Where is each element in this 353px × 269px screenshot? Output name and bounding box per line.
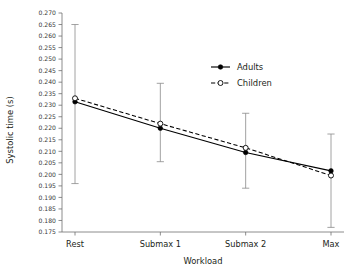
y-tick-label: 0.265 bbox=[39, 21, 57, 28]
chart-legend: AdultsChildren bbox=[211, 62, 272, 88]
y-tick-label: 0.260 bbox=[39, 32, 57, 39]
data-point-children bbox=[329, 173, 334, 178]
data-point-adults bbox=[329, 169, 334, 174]
chart-container: 0.2700.2650.2600.2550.2500.2450.2400.235… bbox=[0, 0, 353, 269]
y-axis-tick-marks bbox=[59, 13, 63, 232]
data-point-children bbox=[73, 96, 78, 101]
y-tick-label: 0.245 bbox=[39, 67, 57, 74]
error-bar bbox=[327, 134, 334, 227]
y-tick-label: 0.190 bbox=[39, 194, 57, 201]
series-line-adults bbox=[75, 102, 331, 171]
legend-label: Children bbox=[237, 78, 272, 88]
y-axis-title-group: Systolic time (s) bbox=[5, 96, 15, 163]
y-axis-group: 0.2700.2650.2600.2550.2500.2450.2400.235… bbox=[39, 9, 62, 235]
y-tick-label: 0.180 bbox=[39, 217, 57, 224]
y-tick-label: 0.235 bbox=[39, 90, 57, 97]
data-point-children bbox=[243, 145, 248, 150]
y-tick-label: 0.175 bbox=[39, 228, 57, 235]
y-tick-label: 0.210 bbox=[39, 148, 57, 155]
error-bars-group bbox=[71, 25, 334, 228]
y-axis-tick-labels: 0.2700.2650.2600.2550.2500.2450.2400.235… bbox=[39, 9, 57, 235]
x-axis-category-labels: RestSubmax 1Submax 2Max bbox=[66, 239, 340, 249]
series-markers-group bbox=[73, 96, 334, 178]
y-tick-label: 0.220 bbox=[39, 124, 57, 131]
data-point-children bbox=[158, 121, 163, 126]
data-point-adults bbox=[243, 150, 248, 155]
x-axis-tick-marks bbox=[75, 232, 331, 236]
data-point-adults bbox=[158, 126, 163, 131]
legend-item-adults: Adults bbox=[211, 62, 263, 72]
y-tick-label: 0.250 bbox=[39, 55, 57, 62]
series-line-children bbox=[75, 98, 331, 175]
x-axis-title-group: Workload bbox=[183, 256, 222, 266]
y-tick-label: 0.195 bbox=[39, 182, 57, 189]
legend-item-children: Children bbox=[211, 78, 272, 88]
systolic-time-line-chart: 0.2700.2650.2600.2550.2500.2450.2400.235… bbox=[0, 0, 353, 269]
y-tick-label: 0.225 bbox=[39, 113, 57, 120]
x-axis-title: Workload bbox=[183, 256, 222, 266]
x-category-label: Max bbox=[323, 239, 340, 249]
y-tick-label: 0.255 bbox=[39, 44, 57, 51]
y-axis-title: Systolic time (s) bbox=[5, 96, 15, 163]
legend-marker-swatch bbox=[218, 65, 223, 70]
legend-marker-swatch bbox=[218, 81, 223, 86]
legend-label: Adults bbox=[237, 62, 263, 72]
y-tick-label: 0.215 bbox=[39, 136, 57, 143]
y-tick-label: 0.185 bbox=[39, 205, 57, 212]
x-category-label: Rest bbox=[66, 239, 85, 249]
y-tick-label: 0.270 bbox=[39, 9, 57, 16]
y-tick-label: 0.230 bbox=[39, 101, 57, 108]
x-category-label: Submax 1 bbox=[140, 239, 181, 249]
y-tick-label: 0.200 bbox=[39, 171, 57, 178]
series-lines-group bbox=[75, 98, 331, 175]
x-category-label: Submax 2 bbox=[225, 239, 266, 249]
y-tick-label: 0.240 bbox=[39, 78, 57, 85]
x-axis-group: RestSubmax 1Submax 2Max bbox=[62, 232, 344, 249]
y-tick-label: 0.205 bbox=[39, 159, 57, 166]
